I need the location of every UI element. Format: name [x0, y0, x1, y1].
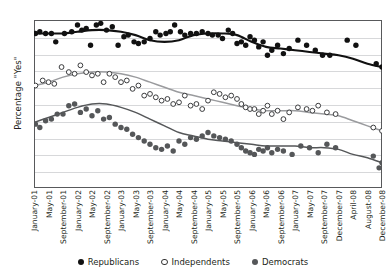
data-point: [40, 78, 45, 83]
data-point: [295, 37, 300, 42]
data-point: [107, 71, 112, 76]
data-point: [66, 103, 71, 108]
data-point: [107, 115, 112, 120]
data-point: [256, 44, 261, 49]
data-point: [153, 29, 158, 34]
data-point: [239, 39, 244, 44]
data-point: [130, 86, 135, 91]
data-point: [252, 37, 257, 42]
x-axis-tick-label: September-07: [320, 190, 329, 252]
legend-marker-icon: [161, 259, 168, 266]
x-axis-tick: May-01: [49, 128, 58, 190]
data-point: [172, 22, 177, 27]
data-point: [60, 111, 65, 116]
data-point: [142, 39, 147, 44]
data-point: [215, 32, 220, 37]
x-axis-tick-label: January-07: [291, 190, 300, 252]
data-point: [275, 108, 280, 113]
data-point: [230, 31, 235, 36]
data-point: [90, 73, 95, 78]
data-point: [376, 165, 381, 170]
x-axis-tick-label: May-07: [306, 190, 315, 252]
data-point: [69, 29, 74, 34]
x-axis-tick: September-06: [281, 128, 290, 190]
data-point: [88, 43, 93, 48]
x-axis-tick-label: May-05: [219, 190, 228, 252]
data-point: [260, 148, 265, 153]
x-axis-tick-labels: January-01May-01September-01January-02Ma…: [34, 190, 382, 254]
data-point: [168, 29, 173, 34]
data-point: [136, 41, 141, 46]
data-point: [43, 118, 48, 123]
legend-label: Democrats: [262, 257, 308, 267]
data-point: [200, 29, 205, 34]
data-point: [217, 135, 222, 140]
x-axis-tick-label: January-06: [248, 190, 257, 252]
data-point: [243, 43, 248, 48]
data-point: [281, 51, 286, 56]
data-point: [275, 43, 280, 48]
data-point: [157, 32, 162, 37]
x-axis-tick-label: September-03: [146, 190, 155, 252]
x-axis-tick: April-08: [353, 128, 362, 190]
data-point: [281, 117, 286, 122]
data-point: [310, 108, 315, 113]
data-point: [101, 116, 106, 121]
data-point: [34, 83, 38, 88]
data-point: [136, 83, 141, 88]
data-point: [115, 43, 120, 48]
x-axis-tick: September-04: [194, 128, 203, 190]
data-point: [84, 26, 89, 31]
x-axis-tick: September-03: [150, 128, 159, 190]
data-point: [84, 106, 89, 111]
legend-item-independents[interactable]: Independents: [161, 257, 230, 267]
data-point: [353, 43, 358, 48]
data-point: [325, 110, 330, 115]
x-axis-tick: May-06: [266, 128, 275, 190]
x-axis-tick-label: December-08: [378, 190, 386, 252]
x-axis-tick: January-05: [208, 128, 217, 190]
data-point: [247, 34, 252, 39]
data-point: [75, 22, 80, 27]
data-point: [98, 21, 103, 26]
x-axis-tick-label: September-06: [277, 190, 286, 252]
data-point: [72, 71, 77, 76]
x-axis-tick: January-06: [252, 128, 261, 190]
data-point: [101, 80, 106, 85]
x-axis-tick: September-07: [324, 128, 333, 190]
data-point: [62, 31, 67, 36]
legend-item-republicans[interactable]: Republicans: [78, 257, 139, 267]
data-point: [59, 65, 64, 70]
series-independents: [34, 63, 382, 133]
legend-marker-icon: [78, 259, 84, 265]
x-axis-tick-label: December-07: [335, 190, 344, 252]
x-axis-tick-label: September-04: [190, 190, 199, 252]
x-axis-tick: January-04: [165, 128, 174, 190]
data-point: [37, 29, 42, 34]
legend-marker-icon: [252, 259, 258, 265]
data-point: [148, 92, 153, 97]
data-point: [165, 97, 170, 102]
data-point: [110, 24, 115, 29]
x-axis-tick-label: May-02: [88, 190, 97, 252]
data-point: [256, 112, 261, 117]
data-point: [43, 31, 48, 36]
data-point: [52, 81, 57, 86]
data-point: [239, 102, 244, 107]
data-point: [78, 63, 83, 68]
x-axis-tick: September-01: [63, 128, 72, 190]
data-point: [223, 95, 228, 100]
x-axis-tick-label: January-03: [117, 190, 126, 252]
data-point: [126, 32, 131, 37]
legend-item-democrats[interactable]: Democrats: [252, 257, 308, 267]
data-point: [182, 32, 187, 37]
x-axis-tick-label: September-01: [59, 190, 68, 252]
x-axis-tick: May-04: [179, 128, 188, 190]
data-point: [113, 75, 118, 80]
data-point: [287, 110, 292, 115]
x-axis-tick-label: May-04: [175, 190, 184, 252]
x-axis-tick: May-05: [223, 128, 232, 190]
data-point: [194, 102, 199, 107]
x-axis-tick: May-02: [92, 128, 101, 190]
x-axis-tick-label: April-08: [349, 190, 358, 252]
